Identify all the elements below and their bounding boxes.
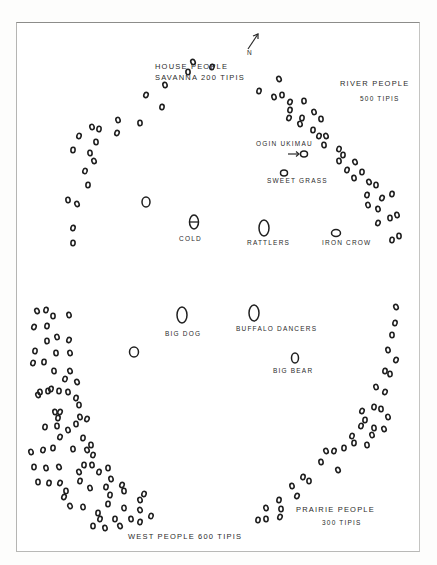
iron-crow-lodge xyxy=(332,230,341,237)
label-river-people: RIVER PEOPLE xyxy=(340,79,409,88)
tipi-icon xyxy=(91,523,95,528)
tipi-icon xyxy=(61,494,67,501)
label-west-people: WEST PEOPLE 600 TIPIS xyxy=(128,532,242,541)
tipi-icon xyxy=(360,169,364,175)
tipi-icon xyxy=(392,320,397,326)
tipi-icon xyxy=(186,69,190,74)
tipi-icon xyxy=(311,109,317,115)
tipi-icon xyxy=(77,414,82,420)
tipi-icon xyxy=(336,146,342,152)
tipi-icon xyxy=(122,488,127,494)
tipi-icon xyxy=(96,469,101,475)
tipi-icon xyxy=(344,167,349,173)
tipi-icon xyxy=(385,414,391,420)
tipi-icon xyxy=(94,139,99,145)
tipi-icon xyxy=(54,350,59,356)
tipi-icon xyxy=(81,435,86,441)
tipi-icon xyxy=(363,417,368,423)
tipi-icon xyxy=(374,182,378,187)
tipi-icon xyxy=(84,447,90,454)
ogin-ukimau-lodge xyxy=(301,151,308,157)
tipi-icon xyxy=(128,516,133,522)
tipi-icon xyxy=(108,476,113,482)
label-iron-crow: IRON CROW xyxy=(322,239,371,246)
tipi-icon xyxy=(280,92,284,97)
tipi-icon xyxy=(382,368,387,374)
tipi-icon xyxy=(307,478,311,483)
tipi-icon xyxy=(382,389,388,396)
tipi-icon xyxy=(51,445,56,451)
tipi-icon xyxy=(264,516,269,522)
tipi-icon xyxy=(76,133,82,139)
tipi-icon xyxy=(372,425,377,431)
tipi-icon xyxy=(114,130,120,137)
tipi-icon xyxy=(117,523,123,530)
tipi-icon xyxy=(71,446,76,452)
label-buffalo-dancers: BUFFALO DANCERS xyxy=(236,325,317,332)
tipi-icon xyxy=(81,504,86,510)
pointer-arrow-icon xyxy=(288,152,299,157)
prairie-people-tipis xyxy=(256,304,400,523)
label-cold: COLD xyxy=(179,235,202,242)
label-ogin-ukimau: OGIN UKIMAU xyxy=(256,140,313,147)
tipi-icon xyxy=(55,423,60,429)
tipi-icon xyxy=(115,117,121,123)
label-rattlers: RATTLERS xyxy=(247,239,290,246)
tipi-icon xyxy=(67,368,73,375)
tipi-icon xyxy=(358,423,364,429)
tipi-icon xyxy=(28,449,34,455)
tipi-icon xyxy=(56,464,62,471)
tipi-icon xyxy=(35,392,41,399)
tipi-icon xyxy=(31,324,37,331)
label-river-people-tipis: 500 TIPIS xyxy=(360,95,400,102)
tipi-icon xyxy=(263,505,268,511)
tipi-icon xyxy=(88,150,93,156)
buffalo-dancers-lodge xyxy=(249,305,259,321)
tipi-icon xyxy=(319,116,324,122)
tipi-icon xyxy=(397,233,402,239)
tipi-icon xyxy=(48,386,53,392)
tipi-icon xyxy=(331,448,336,454)
tipi-icon xyxy=(342,445,346,451)
tipi-icon xyxy=(30,360,36,366)
tipi-icon xyxy=(71,147,76,153)
tipi-icon xyxy=(337,158,342,164)
tipi-icon xyxy=(55,415,60,421)
tipi-icon xyxy=(82,462,86,468)
tipi-icon xyxy=(74,421,78,427)
tipi-icon xyxy=(82,168,88,174)
tipi-icon xyxy=(44,323,49,329)
label-big-dog: BIG DOG xyxy=(165,330,201,337)
tipi-icon xyxy=(34,308,40,315)
lone-lodge-center xyxy=(130,347,139,357)
tipi-icon xyxy=(300,474,305,480)
tipi-icon xyxy=(62,376,68,382)
tipi-icon xyxy=(294,493,300,500)
tipi-icon xyxy=(46,480,51,486)
label-sweet-grass: SWEET GRASS xyxy=(267,177,328,184)
tipi-icon xyxy=(388,215,392,221)
tipi-icon xyxy=(96,510,101,516)
tipi-icon xyxy=(106,465,110,470)
big-dog-lodge xyxy=(177,307,187,323)
tipi-icon xyxy=(322,142,327,148)
tipi-icon xyxy=(323,448,329,455)
tipi-icon xyxy=(67,503,73,510)
tipi-icon xyxy=(137,519,142,525)
label-prairie-people-tipis: 300 TIPIS xyxy=(322,519,362,526)
north-label: N xyxy=(247,49,253,56)
tipi-icon xyxy=(276,497,281,503)
tipi-icon xyxy=(57,480,63,487)
tipi-icon xyxy=(375,206,380,212)
tipi-icon xyxy=(74,379,80,386)
tipi-icon xyxy=(318,459,323,465)
tipi-icon xyxy=(388,371,392,377)
tipi-icon xyxy=(297,121,303,127)
big-bear-lodge xyxy=(292,353,299,363)
tipi-icon xyxy=(42,359,47,365)
tipi-icon xyxy=(162,82,167,88)
tipi-icon xyxy=(57,434,63,441)
tipi-icon xyxy=(97,516,102,522)
tipi-icon xyxy=(57,388,61,394)
tipi-icon xyxy=(372,404,377,410)
